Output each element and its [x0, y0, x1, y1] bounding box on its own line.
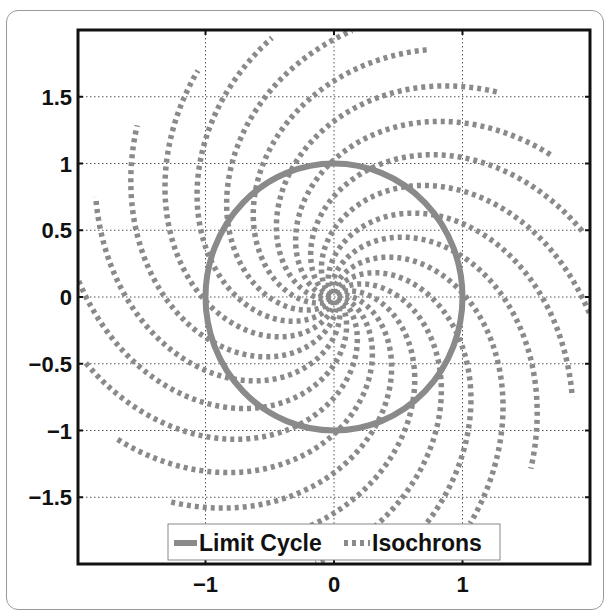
legend: Limit Cycle Isochrons [168, 524, 500, 560]
x-tick-label: 1 [456, 572, 468, 597]
y-tick-label: −1.5 [29, 485, 72, 510]
y-tick-label: 0 [60, 285, 72, 310]
y-tick-labels: 1.510.50−0.5−1−1.5 [29, 85, 72, 511]
y-tick-label: −1 [47, 419, 72, 444]
y-tick-label: 1 [60, 152, 72, 177]
y-tick-label: −0.5 [29, 352, 72, 377]
x-tick-labels: −101 [193, 572, 469, 597]
y-tick-label: 0.5 [41, 218, 72, 243]
legend-label-limit-cycle: Limit Cycle [199, 530, 322, 556]
y-tick-label: 1.5 [41, 85, 72, 110]
x-tick-label: −1 [193, 572, 218, 597]
legend-label-isochrons: Isochrons [372, 530, 482, 556]
x-tick-label: 0 [328, 572, 340, 597]
